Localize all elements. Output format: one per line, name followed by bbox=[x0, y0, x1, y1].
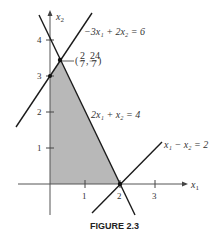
x-tick-label-1: 1 bbox=[82, 191, 87, 201]
y-tick-label-4: 4 bbox=[37, 35, 42, 45]
x-tick-label-3: 3 bbox=[152, 191, 157, 201]
vertex-label: ( 2 7 , 24 7 ) bbox=[75, 50, 101, 69]
feasible-region bbox=[50, 60, 120, 184]
point-0-3 bbox=[48, 74, 52, 78]
line-3-label: x₁ − x₂ = 2 bbox=[163, 139, 208, 150]
x-axis-arrow-icon bbox=[182, 182, 188, 187]
svg-text:,: , bbox=[86, 55, 89, 66]
svg-text:7: 7 bbox=[80, 58, 85, 69]
point-2-0 bbox=[118, 182, 122, 186]
y-axis-label: x2 bbox=[55, 11, 64, 24]
line-2-label: 2x₁ + x₂ = 4 bbox=[91, 109, 140, 120]
x-axis-label: x1 bbox=[190, 179, 199, 192]
vertex-point bbox=[58, 58, 62, 62]
svg-text:(: ( bbox=[75, 55, 79, 67]
figure-svg: 1 2 3 1 2 3 4 x1 x2 ( 2 7 , 24 7 ) −3x₁ … bbox=[0, 0, 218, 244]
x-tick-label-2: 2 bbox=[117, 191, 122, 201]
figure-caption: FIGURE 2.3 bbox=[90, 221, 139, 231]
y-tick-label-1: 1 bbox=[37, 143, 42, 153]
svg-text:): ) bbox=[98, 55, 101, 67]
y-tick-label-3: 3 bbox=[37, 71, 42, 81]
line-1-label: −3x₁ + 2x₂ = 6 bbox=[84, 26, 145, 37]
svg-text:7: 7 bbox=[92, 58, 97, 69]
y-axis-arrow-icon bbox=[48, 10, 53, 16]
y-tick-label-2: 2 bbox=[37, 107, 42, 117]
